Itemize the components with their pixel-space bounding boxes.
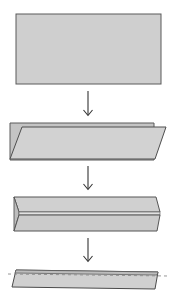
folding-diagram [0,0,174,300]
step-4-folded-strip [8,270,168,289]
paper-bottom-panel [14,215,160,231]
arrow-down-icon [84,91,93,116]
step-2-folded-in-half [10,123,166,160]
paper-sheet [16,14,161,84]
step-3-folded-edges [14,197,160,231]
arrow-down-icon [84,166,93,190]
arrow-down-icon [84,238,93,262]
step-1-flat-rectangle [16,14,161,84]
paper-top-panel [14,197,160,212]
paper-front-layer [10,127,166,159]
